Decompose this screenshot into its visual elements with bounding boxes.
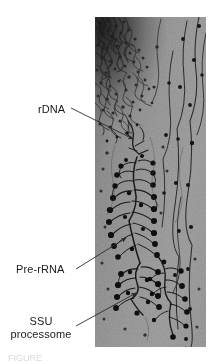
dense-chromatin-mass: [95, 17, 151, 143]
label-ssu-processome-line2: processome: [6, 328, 76, 341]
label-pre-rrna: Pre-rRNA: [16, 263, 64, 276]
figure-root: rDNA Pre-rRNA SSU processome FIGURE: [0, 0, 221, 364]
electron-micrograph-image: [95, 17, 206, 347]
transcription-unit-lower-left: [117, 263, 161, 315]
label-rdna: rDNA: [38, 103, 65, 116]
label-ssu-processome: SSU processome: [6, 315, 76, 341]
chromatin-spread-artwork: [95, 17, 206, 347]
figure-caption-partial: FIGURE: [8, 353, 208, 362]
label-ssu-processome-line1: SSU: [6, 315, 76, 328]
